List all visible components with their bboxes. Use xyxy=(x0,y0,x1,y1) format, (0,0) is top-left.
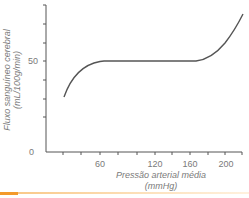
autoregulation-curve xyxy=(64,14,243,97)
y-axis-label-line2: (mL/100g/min) xyxy=(12,51,22,109)
x-axis-label-line2: (mmHg) xyxy=(145,181,178,191)
x-tick-label-60: 60 xyxy=(95,159,105,169)
y-axis-label-line1: Fluxo sanguíneo cerebral xyxy=(2,28,12,131)
x-tick-label-120: 120 xyxy=(147,159,162,169)
accent-bar-gradient xyxy=(18,192,249,194)
y-tick-label-50: 50 xyxy=(28,56,38,66)
x-tick-label-160: 160 xyxy=(182,159,197,169)
y-tick-label-0: 0 xyxy=(29,147,34,157)
accent-bar xyxy=(0,192,18,195)
chart: 50 0 60 120 160 200 Pressão arterial méd… xyxy=(0,0,249,198)
x-tick-label-200: 200 xyxy=(218,159,233,169)
x-axis-label-line1: Pressão arterial média xyxy=(116,170,206,180)
